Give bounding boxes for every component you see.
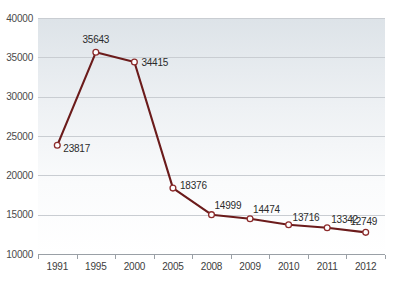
data-point-2009 bbox=[247, 216, 253, 222]
data-label-1995: 35643 bbox=[82, 34, 109, 45]
y-tick-label-35000: 35000 bbox=[6, 52, 33, 63]
x-tick-label-2012: 2012 bbox=[355, 261, 377, 272]
x-tick-label-2000: 2000 bbox=[124, 261, 146, 272]
x-tick-label-2009: 2009 bbox=[239, 261, 261, 272]
x-axis-tickmarks bbox=[39, 255, 386, 259]
x-axis-tick-labels: 199119952000200520082009201020112012 bbox=[47, 261, 378, 272]
x-tick-label-2011: 2011 bbox=[317, 261, 338, 272]
x-tick-label-1995: 1995 bbox=[85, 261, 107, 272]
data-point-2012 bbox=[363, 229, 369, 235]
data-point-2008 bbox=[209, 212, 215, 218]
data-point-2005 bbox=[170, 185, 176, 191]
data-point-2011 bbox=[324, 225, 330, 231]
data-label-2009: 14474 bbox=[253, 204, 280, 215]
data-label-1991: 23817 bbox=[63, 143, 90, 154]
chart-canvas: 10000150002000025000300003500040000 1991… bbox=[0, 0, 403, 287]
data-point-1991 bbox=[54, 142, 60, 148]
x-tick-label-2008: 2008 bbox=[201, 261, 223, 272]
line-chart: 10000150002000025000300003500040000 1991… bbox=[0, 0, 403, 287]
y-tick-label-30000: 30000 bbox=[6, 91, 33, 102]
y-tick-label-20000: 20000 bbox=[6, 170, 33, 181]
y-axis-tick-labels: 10000150002000025000300003500040000 bbox=[6, 13, 33, 260]
data-point-1995 bbox=[93, 49, 99, 55]
x-tick-label-1991: 1991 bbox=[47, 261, 69, 272]
x-tick-label-2010: 2010 bbox=[278, 261, 300, 272]
data-label-2005: 18376 bbox=[180, 180, 207, 191]
data-label-2012: 12749 bbox=[350, 216, 377, 227]
data-point-2000 bbox=[131, 59, 137, 65]
data-label-2000: 34415 bbox=[141, 57, 168, 68]
x-tick-label-2005: 2005 bbox=[162, 261, 184, 272]
data-label-2010: 13716 bbox=[293, 212, 320, 223]
y-tick-label-15000: 15000 bbox=[6, 209, 33, 220]
y-tick-label-10000: 10000 bbox=[6, 249, 33, 260]
y-tick-label-25000: 25000 bbox=[6, 131, 33, 142]
data-label-2008: 14999 bbox=[215, 200, 242, 211]
y-tick-label-40000: 40000 bbox=[6, 13, 33, 24]
data-point-2010 bbox=[286, 222, 292, 228]
